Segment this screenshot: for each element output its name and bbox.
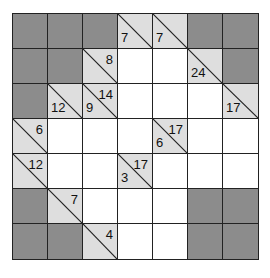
across-clue: 6 [36, 123, 43, 136]
blocked-cell [223, 224, 258, 259]
blocked-cell [188, 14, 223, 49]
clue-cell: 6 [13, 119, 48, 154]
across-clue: 17 [169, 123, 183, 136]
blocked-cell [223, 49, 258, 84]
entry-cell[interactable] [83, 119, 118, 154]
across-clue: 7 [71, 193, 78, 206]
clue-cell: 8 [83, 49, 118, 84]
entry-cell[interactable] [153, 84, 188, 119]
entry-cell[interactable] [153, 49, 188, 84]
entry-cell[interactable] [223, 154, 258, 189]
blocked-cell [13, 14, 48, 49]
down-clue: 24 [191, 66, 205, 79]
blocked-cell [48, 224, 83, 259]
blocked-cell [188, 189, 223, 224]
blocked-cell [13, 224, 48, 259]
clue-cell: 17 [223, 84, 258, 119]
clue-cell: 12 [48, 84, 83, 119]
blocked-cell [83, 14, 118, 49]
entry-cell[interactable] [153, 189, 188, 224]
blocked-cell [223, 14, 258, 49]
across-clue: 12 [29, 158, 43, 171]
clue-cell: 7 [48, 189, 83, 224]
down-clue: 3 [121, 171, 128, 184]
blocked-cell [188, 224, 223, 259]
down-clue: 9 [86, 101, 93, 114]
down-clue: 6 [156, 136, 163, 149]
clue-cell: 12 [13, 154, 48, 189]
blocked-cell [48, 49, 83, 84]
clue-cell: 149 [83, 84, 118, 119]
entry-cell[interactable] [188, 154, 223, 189]
entry-cell[interactable] [153, 154, 188, 189]
entry-cell[interactable] [223, 119, 258, 154]
entry-cell[interactable] [118, 84, 153, 119]
clue-cell: 7 [118, 14, 153, 49]
clue-cell: 24 [188, 49, 223, 84]
kakuro-grid: 77824121491761761217374 [12, 13, 259, 260]
down-clue: 12 [51, 101, 65, 114]
across-clue: 14 [99, 88, 113, 101]
blocked-cell [13, 84, 48, 119]
blocked-cell [48, 14, 83, 49]
entry-cell[interactable] [83, 154, 118, 189]
blocked-cell [13, 49, 48, 84]
entry-cell[interactable] [118, 49, 153, 84]
entry-cell[interactable] [48, 154, 83, 189]
clue-cell: 7 [153, 14, 188, 49]
down-clue: 7 [121, 31, 128, 44]
clue-cell: 173 [118, 154, 153, 189]
down-clue: 17 [226, 101, 240, 114]
blocked-cell [13, 189, 48, 224]
blocked-cell [223, 189, 258, 224]
entry-cell[interactable] [188, 119, 223, 154]
entry-cell[interactable] [48, 119, 83, 154]
entry-cell[interactable] [83, 189, 118, 224]
clue-cell: 176 [153, 119, 188, 154]
across-clue: 17 [134, 158, 148, 171]
down-clue: 7 [156, 31, 163, 44]
across-clue: 8 [106, 53, 113, 66]
entry-cell[interactable] [118, 189, 153, 224]
entry-cell[interactable] [118, 119, 153, 154]
clue-cell: 4 [83, 224, 118, 259]
across-clue: 4 [106, 228, 113, 241]
entry-cell[interactable] [118, 224, 153, 259]
entry-cell[interactable] [188, 84, 223, 119]
entry-cell[interactable] [153, 224, 188, 259]
